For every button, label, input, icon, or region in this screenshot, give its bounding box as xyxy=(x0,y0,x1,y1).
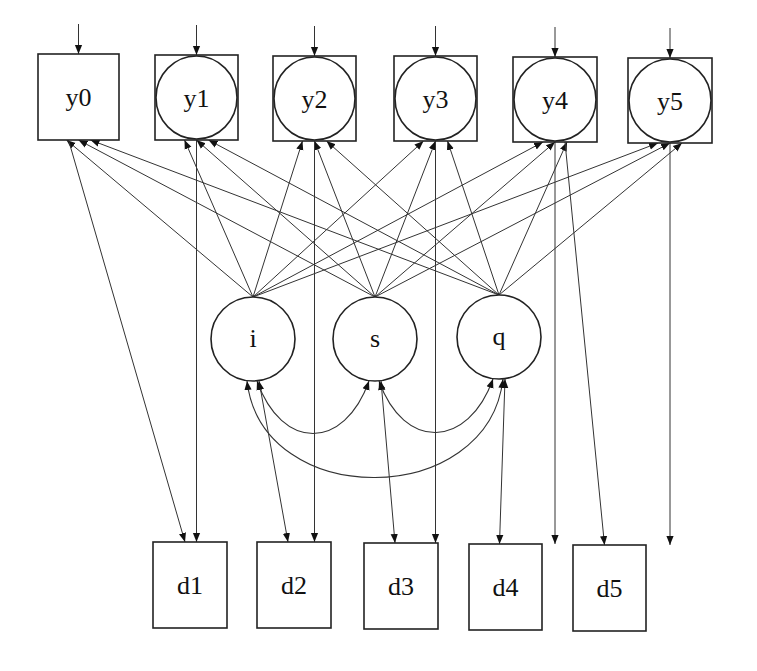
node-label: d3 xyxy=(388,572,414,601)
factor-label: q xyxy=(493,322,506,351)
loading-i-y0 xyxy=(67,140,254,297)
node-label: d5 xyxy=(597,574,623,603)
regression-y0-d1 xyxy=(69,140,186,542)
node-label: d4 xyxy=(493,573,519,602)
node-y2: y2 xyxy=(273,56,356,141)
node-label: y4 xyxy=(542,86,568,115)
node-d2: d2 xyxy=(257,542,331,628)
node-label: y3 xyxy=(423,85,449,114)
loading-s-y4 xyxy=(375,142,555,297)
node-label: y2 xyxy=(302,85,328,114)
loading-s-y5 xyxy=(375,143,670,297)
node-label: d1 xyxy=(177,571,203,600)
node-d5: d5 xyxy=(573,545,646,631)
double-arrow-s-d3 xyxy=(381,381,395,543)
loading-i-y2 xyxy=(253,141,303,297)
regression-y4-d5 xyxy=(565,142,605,545)
factor-s: s xyxy=(333,297,417,381)
node-label: y1 xyxy=(184,84,210,113)
node-y5: y5 xyxy=(628,58,712,143)
node-y3: y3 xyxy=(394,56,477,141)
factor-i: i xyxy=(211,297,295,381)
node-d1: d1 xyxy=(153,542,227,628)
covariance-i-s xyxy=(257,381,369,434)
loading-s-y3 xyxy=(375,141,436,297)
node-d4: d4 xyxy=(469,544,542,630)
double-arrow-q-d4 xyxy=(500,379,506,544)
loading-s-y1 xyxy=(197,140,376,297)
loading-q-y5 xyxy=(499,143,682,295)
loading-s-y2 xyxy=(315,141,376,297)
factor-q: q xyxy=(457,295,541,379)
covariance-i-q xyxy=(247,379,503,478)
node-d3: d3 xyxy=(364,543,438,629)
factor-label: s xyxy=(370,324,380,353)
double-arrow-i-d2 xyxy=(259,381,288,542)
node-y0: y0 xyxy=(38,54,119,140)
node-label: y0 xyxy=(66,83,92,112)
node-y1: y1 xyxy=(155,55,238,140)
factor-label: i xyxy=(249,324,256,353)
path-diagram: y0y1y2y3y4y5isqd1d2d3d4d5 xyxy=(0,0,757,671)
nodes-layer: y0y1y2y3y4y5isqd1d2d3d4d5 xyxy=(38,54,712,631)
loading-s-y0 xyxy=(79,140,376,297)
node-label: y5 xyxy=(657,87,683,116)
loading-i-y1 xyxy=(185,140,254,297)
loading-q-y0 xyxy=(91,140,500,295)
node-y4: y4 xyxy=(513,57,597,142)
node-label: d2 xyxy=(281,571,307,600)
loading-q-y4 xyxy=(499,142,567,295)
loading-i-y4 xyxy=(253,142,543,297)
